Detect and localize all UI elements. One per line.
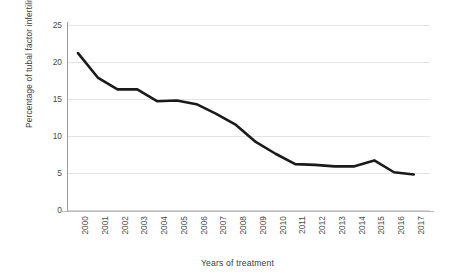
x-tick-label: 2011 xyxy=(298,216,307,234)
x-tick-label: 2002 xyxy=(121,216,130,235)
y-tick-label: 5 xyxy=(57,168,62,178)
x-tick-label: 2000 xyxy=(81,216,90,235)
y-tick-label: 25 xyxy=(53,20,62,30)
x-tick-label: 2017 xyxy=(417,216,426,235)
x-tick-label: 2006 xyxy=(200,216,209,235)
x-axis-title-label: Years of treatment xyxy=(201,258,274,268)
x-tick-label: 2003 xyxy=(140,216,149,235)
x-tick-label: 2009 xyxy=(259,216,268,235)
plot-area: 0510152025 xyxy=(68,25,430,210)
x-tick-label: 2004 xyxy=(160,216,169,235)
y-axis-title: Percentage of tubal factor infertility xyxy=(24,0,34,156)
line-chart: Percentage of tubal factor infertility 0… xyxy=(0,0,455,279)
data-line-series xyxy=(68,25,430,210)
x-tick-label: 2005 xyxy=(180,216,189,235)
y-tick-label: 20 xyxy=(53,57,62,67)
x-tick-label: 2013 xyxy=(338,216,347,235)
x-tick-label: 2001 xyxy=(101,216,110,235)
x-tick-label: 2007 xyxy=(219,216,228,235)
x-axis-title: Years of treatment xyxy=(0,258,455,268)
y-tick-label: 0 xyxy=(57,205,62,215)
x-tick-label: 2015 xyxy=(377,216,386,235)
x-tick-label: 2014 xyxy=(358,216,367,235)
x-axis-line xyxy=(62,211,434,212)
y-tick-label: 15 xyxy=(53,94,62,104)
x-tick-label: 2008 xyxy=(239,216,248,235)
x-tick-label: 2012 xyxy=(318,216,327,235)
x-tick-label: 2010 xyxy=(279,216,288,235)
y-tick-label: 10 xyxy=(53,131,62,141)
series-polyline xyxy=(78,53,414,174)
x-tick-label: 2016 xyxy=(397,216,406,235)
gridline-0 xyxy=(68,210,430,211)
